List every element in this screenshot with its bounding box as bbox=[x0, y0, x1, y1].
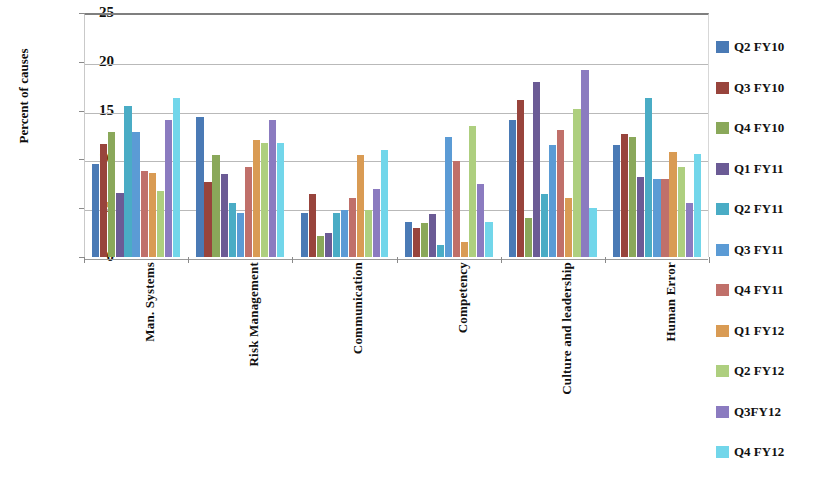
bar bbox=[373, 189, 380, 257]
x-axis-labels: Man. SystemsRisk ManagementCommunication… bbox=[84, 258, 709, 458]
bar bbox=[253, 140, 260, 257]
bar bbox=[445, 137, 452, 257]
x-axis-label: Competency bbox=[449, 262, 465, 333]
bar-group bbox=[501, 13, 605, 257]
bar-group bbox=[397, 13, 501, 257]
bar bbox=[453, 161, 460, 257]
bar bbox=[613, 145, 620, 257]
bar bbox=[549, 145, 556, 257]
x-axis-label-slot: Human Error bbox=[605, 258, 709, 458]
legend-swatch-icon bbox=[716, 365, 729, 377]
legend-item[interactable]: Q1 FY11 bbox=[716, 149, 824, 190]
x-axis-label: Communication bbox=[344, 262, 360, 354]
x-axis-label-slot: Communication bbox=[292, 258, 396, 458]
bar-group bbox=[84, 13, 188, 257]
legend-item[interactable]: Q4 FY11 bbox=[716, 270, 824, 311]
legend-label: Q1 FY11 bbox=[734, 161, 783, 177]
legend-swatch-icon bbox=[716, 325, 729, 337]
bar-chart: Percent of causes 0510152025 Man. System… bbox=[0, 0, 826, 491]
bar bbox=[141, 171, 148, 257]
bar bbox=[541, 194, 548, 257]
bar bbox=[413, 228, 420, 257]
legend-label: Q4 FY12 bbox=[734, 444, 784, 460]
bar bbox=[461, 242, 468, 257]
bar-groups bbox=[84, 13, 709, 257]
bar bbox=[100, 144, 107, 257]
bar bbox=[149, 173, 156, 257]
legend-swatch-icon bbox=[716, 82, 729, 94]
bar bbox=[124, 106, 131, 257]
bar bbox=[581, 70, 588, 257]
legend-label: Q3FY12 bbox=[734, 404, 781, 420]
bar bbox=[245, 167, 252, 257]
x-axis-label-text: Man. Systems bbox=[142, 262, 158, 342]
bar bbox=[589, 208, 596, 257]
legend-swatch-icon bbox=[716, 203, 729, 215]
legend-label: Q2 FY10 bbox=[734, 39, 784, 55]
bar bbox=[173, 98, 180, 257]
bar bbox=[477, 184, 484, 257]
legend-item[interactable]: Q3 FY11 bbox=[716, 230, 824, 271]
x-axis-label-text: Human Error bbox=[663, 262, 679, 342]
bar bbox=[108, 132, 115, 257]
legend-swatch-icon bbox=[716, 122, 729, 134]
bar bbox=[565, 198, 572, 257]
legend-item[interactable]: Q1 FY12 bbox=[716, 311, 824, 352]
bar bbox=[325, 233, 332, 257]
bar bbox=[533, 82, 540, 257]
legend-swatch-icon bbox=[716, 41, 729, 53]
bar bbox=[277, 143, 284, 257]
x-axis-label-text: Risk Management bbox=[246, 262, 262, 366]
bar bbox=[261, 143, 268, 257]
bar bbox=[429, 214, 436, 257]
legend-swatch-icon bbox=[716, 406, 729, 418]
legend-label: Q4 FY11 bbox=[734, 282, 783, 298]
legend-label: Q1 FY12 bbox=[734, 323, 784, 339]
x-axis-label: Risk Management bbox=[240, 262, 256, 366]
legend-item[interactable]: Q4 FY12 bbox=[716, 432, 824, 473]
legend-item[interactable]: Q2 FY12 bbox=[716, 351, 824, 392]
bar bbox=[678, 167, 685, 257]
legend-item[interactable]: Q3 FY10 bbox=[716, 68, 824, 109]
bar bbox=[317, 236, 324, 257]
x-axis-label-text: Communication bbox=[350, 262, 366, 354]
bar-group bbox=[292, 13, 396, 257]
bar bbox=[357, 155, 364, 257]
x-axis-label: Culture and leadership bbox=[553, 262, 569, 395]
bar bbox=[653, 179, 660, 257]
bar bbox=[333, 213, 340, 257]
bar bbox=[116, 193, 123, 257]
bar bbox=[421, 223, 428, 257]
bar bbox=[557, 130, 564, 257]
bar bbox=[269, 120, 276, 257]
x-axis-label-text: Competency bbox=[455, 262, 471, 333]
legend-item[interactable]: Q2 FY10 bbox=[716, 27, 824, 68]
bar bbox=[485, 222, 492, 257]
y-axis-title: Percent of causes bbox=[16, 16, 32, 176]
bar bbox=[349, 198, 356, 257]
bar bbox=[405, 222, 412, 257]
bar bbox=[381, 150, 388, 257]
bar bbox=[212, 155, 219, 257]
bar bbox=[301, 213, 308, 257]
legend-label: Q3 FY10 bbox=[734, 80, 784, 96]
bar bbox=[525, 218, 532, 257]
bar bbox=[365, 210, 372, 257]
legend-swatch-icon bbox=[716, 163, 729, 175]
legend-item[interactable]: Q2 FY11 bbox=[716, 189, 824, 230]
bar bbox=[629, 137, 636, 257]
bar bbox=[637, 177, 644, 257]
chart-legend: Q2 FY10Q3 FY10Q4 FY10Q1 FY11Q2 FY11Q3 FY… bbox=[716, 27, 824, 473]
bar bbox=[341, 210, 348, 257]
bar bbox=[686, 203, 693, 257]
x-axis-label-text: Culture and leadership bbox=[559, 262, 575, 395]
bar-group bbox=[605, 13, 709, 257]
legend-label: Q3 FY11 bbox=[734, 242, 783, 258]
x-axis-separator bbox=[709, 257, 710, 263]
x-axis-label: Human Error bbox=[657, 262, 673, 342]
legend-item[interactable]: Q3FY12 bbox=[716, 392, 824, 433]
legend-label: Q4 FY10 bbox=[734, 120, 784, 136]
legend-item[interactable]: Q4 FY10 bbox=[716, 108, 824, 149]
bar bbox=[661, 179, 668, 257]
bar-group bbox=[188, 13, 292, 257]
